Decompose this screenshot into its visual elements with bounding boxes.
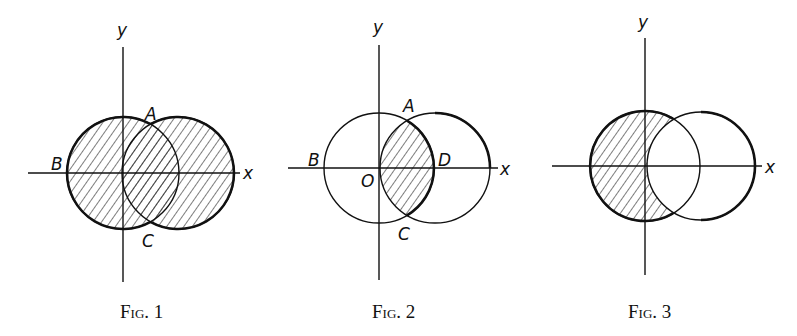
x-axis-label: x [499,159,511,179]
x-axis-label: x [242,163,254,183]
x-axis-label: x [764,157,776,177]
figure-1: y x A B C Fig. 1 [28,20,254,322]
y-axis-label: y [637,12,649,32]
point-d-label: D [438,150,451,170]
point-c-label: C [142,231,154,251]
y-axis-label: y [372,17,384,37]
y-axis-label: y [116,20,128,40]
figure-caption: Fig. 1 [120,301,163,322]
point-o-label: O [361,171,374,191]
point-c-label: C [398,224,410,244]
figure-caption: Fig. 3 [628,301,671,322]
figure-caption: Fig. 2 [372,301,415,322]
point-b-label: B [51,154,63,174]
figure-2: y x A B D O C Fig. 2 [288,17,511,322]
point-a-label: A [144,104,157,124]
figure-3: y x Fig. 3 [552,12,776,322]
point-b-label: B [308,150,320,170]
figures-canvas: y x A B C Fig. 1 y x A B D O C Fig. 2 [0,0,797,336]
point-a-label: A [402,96,415,116]
